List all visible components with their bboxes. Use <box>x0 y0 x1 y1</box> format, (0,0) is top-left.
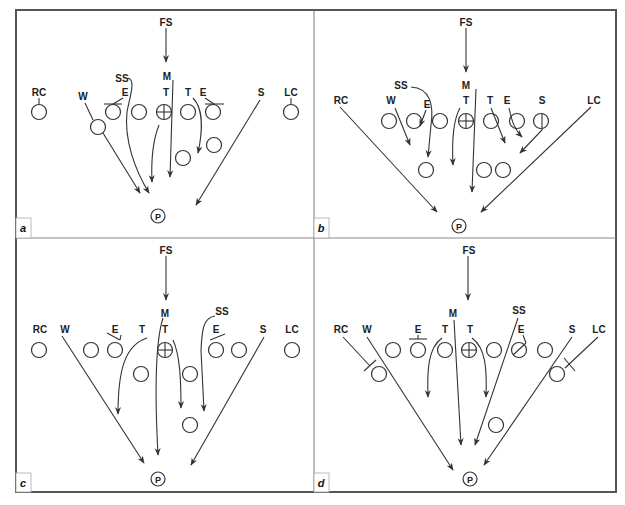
rush-paths <box>62 316 264 465</box>
label-p: P <box>456 222 462 232</box>
label-p: P <box>155 475 161 485</box>
label-w: W <box>60 324 70 335</box>
label-rc: RC <box>33 324 47 335</box>
offense-players <box>32 343 300 433</box>
label-t1: T <box>442 324 448 335</box>
label-e2: E <box>518 324 525 335</box>
label-m: M <box>163 71 171 82</box>
rush-paths <box>85 78 260 205</box>
label-rc: RC <box>334 95 348 106</box>
panel-tag-d: d <box>318 477 325 489</box>
label-w: W <box>78 91 88 102</box>
label-lc: LC <box>587 95 600 106</box>
label-s: S <box>260 324 267 335</box>
label-e1: E <box>122 87 129 98</box>
label-t1: T <box>139 324 145 335</box>
panel-d: d FS M SS RC W E T T E S LC <box>314 245 606 492</box>
label-lc: LC <box>285 324 298 335</box>
label-e2: E <box>504 95 511 106</box>
label-rc: RC <box>32 87 46 98</box>
label-e2: E <box>213 324 220 335</box>
label-p: P <box>467 475 473 485</box>
label-t1: T <box>163 87 169 98</box>
label-fs: FS <box>160 245 173 256</box>
label-e1: E <box>415 324 422 335</box>
label-ss: SS <box>115 73 129 84</box>
punt-block-diagram: a FS M SS RC W E T T E S LC <box>0 0 625 505</box>
diagram-frame <box>16 10 616 492</box>
label-lc: LC <box>284 87 297 98</box>
label-m: M <box>462 80 470 91</box>
label-t2: T <box>162 324 168 335</box>
offense-players <box>382 114 549 178</box>
label-s: S <box>539 95 546 106</box>
panel-tag-c: c <box>20 477 26 489</box>
label-ss: SS <box>215 306 229 317</box>
panel-tag-b: b <box>318 222 325 234</box>
label-m: M <box>161 308 169 319</box>
label-e2: E <box>200 87 207 98</box>
label-t2: T <box>185 87 191 98</box>
label-fs: FS <box>160 17 173 28</box>
label-t1: T <box>463 95 469 106</box>
label-fs: FS <box>463 245 476 256</box>
panel-a: a FS M SS RC W E T T E S LC <box>16 17 299 238</box>
label-ss: SS <box>512 305 526 316</box>
rush-paths <box>343 318 598 470</box>
label-e1: E <box>112 324 119 335</box>
label-lc: LC <box>592 324 605 335</box>
label-s: S <box>569 324 576 335</box>
label-rc: RC <box>334 324 348 335</box>
label-p: P <box>155 212 161 222</box>
panel-c: c FS M SS RC W E T T E S LC <box>16 245 300 492</box>
label-t2: T <box>467 324 473 335</box>
label-m: M <box>449 308 457 319</box>
label-fs: FS <box>460 17 473 28</box>
label-t2: T <box>487 95 493 106</box>
label-s: S <box>258 87 265 98</box>
offense-players <box>32 98 299 166</box>
label-ss: SS <box>394 80 408 91</box>
panel-tag-a: a <box>20 222 26 234</box>
offense-players <box>372 343 565 433</box>
panel-b: b FS M SS RC W E T T E S LC <box>314 17 601 238</box>
label-w: W <box>362 324 372 335</box>
label-w: W <box>386 95 396 106</box>
